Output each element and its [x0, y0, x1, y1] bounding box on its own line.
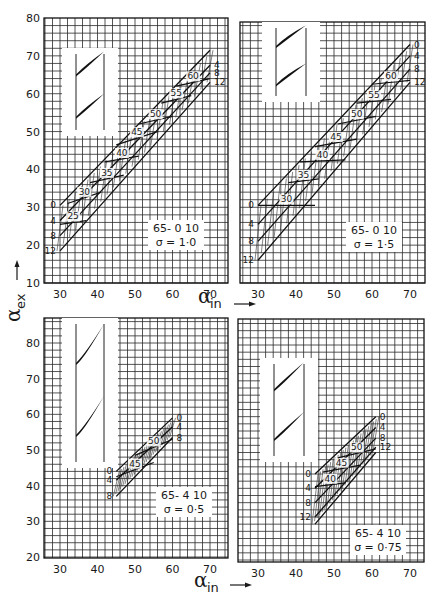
- y-tick-label: 70: [26, 373, 40, 386]
- y-tick-label: 50: [26, 444, 40, 457]
- incidence-label-right: 4: [380, 422, 386, 432]
- x-tick-label: 40: [289, 288, 303, 301]
- y-tick-label: 80: [26, 12, 40, 25]
- x-tick-label: 70: [403, 288, 417, 301]
- incidence-label-right: 8: [177, 433, 183, 443]
- incidence-label-right: 12: [414, 77, 425, 87]
- y-tick-label: 70: [26, 50, 40, 63]
- x-tick-label: 30: [251, 288, 265, 301]
- chart-panel-bottom-left: 304050607020304050607080004488455065- 4 …: [26, 318, 228, 576]
- incidence-line: [315, 438, 376, 503]
- airfoil-label: 65- 4 10: [161, 489, 207, 502]
- incidence-label-left: 8: [50, 231, 56, 241]
- y-tick-label: 60: [26, 408, 40, 421]
- chart-panel-top-right: 304050607000448812123035404550556065- 0 …: [240, 22, 425, 301]
- airfoil-annotation: 65- 4 10σ = 0·5: [156, 487, 212, 517]
- y-axis-subscript: ex: [13, 293, 28, 309]
- x-tick-label: 60: [166, 563, 180, 576]
- stagger-label: 35: [298, 170, 309, 180]
- incidence-label-left: 4: [305, 483, 311, 493]
- incidence-label-right: 0: [380, 412, 386, 422]
- y-tick-label: 30: [26, 515, 40, 528]
- x-tick-label: 50: [128, 288, 142, 301]
- solidity-label: σ = 1·5: [354, 238, 395, 251]
- airfoil-label: 65- 4 10: [355, 527, 401, 540]
- x-axis-alpha-bottom: α: [194, 568, 208, 592]
- cascade-blade-inset: [62, 318, 118, 468]
- x-tick-label: 30: [53, 288, 67, 301]
- x-tick-label: 40: [289, 567, 303, 580]
- stagger-label: 45: [131, 127, 142, 137]
- stagger-label: 50: [351, 442, 363, 452]
- y-axis-arrow-icon: [15, 260, 20, 280]
- stagger-label: 35: [101, 168, 112, 178]
- cascade-blade-inset: [262, 22, 320, 102]
- stagger-label: 55: [368, 90, 379, 100]
- y-tick-label: 20: [26, 239, 40, 252]
- incidence-label-left: 12: [243, 255, 254, 265]
- airfoil-label: 65- 0 10: [351, 224, 397, 237]
- y-tick-label: 60: [26, 88, 40, 101]
- cascade-deflection-figure: 3040506070102030405060708004488121225303…: [0, 0, 437, 612]
- x-tick-label: 50: [128, 563, 142, 576]
- incidence-label-right: 12: [380, 442, 391, 452]
- chart-panel-top-left: 3040506070102030405060708004488121225303…: [26, 12, 228, 301]
- chart-panels: 3040506070102030405060708004488121225303…: [26, 12, 425, 580]
- x-tick-label: 70: [403, 567, 417, 580]
- stagger-label: 30: [79, 187, 91, 197]
- incidence-label-left: 12: [300, 512, 311, 522]
- x-tick-label: 30: [53, 563, 67, 576]
- stagger-label: 60: [187, 71, 199, 81]
- solidity-label: σ = 1·0: [156, 236, 197, 249]
- cascade-blade-inset: [62, 48, 118, 136]
- airfoil-annotation: 65- 4 10σ = 0·75: [350, 525, 406, 555]
- incidence-label-left: 8: [248, 236, 254, 246]
- incidence-label-left: 4: [248, 219, 254, 229]
- x-tick-label: 40: [91, 563, 105, 576]
- stagger-label: 45: [330, 132, 341, 142]
- y-tick-label: 40: [26, 480, 40, 493]
- airfoil-annotation: 65- 0 10σ = 1·0: [148, 220, 204, 250]
- stagger-label: 45: [336, 458, 347, 468]
- stagger-label: 40: [324, 474, 336, 484]
- incidence-label-left: 8: [305, 498, 311, 508]
- x-axis-arrow-icon: [234, 302, 256, 307]
- chart-panel-bottom-right: 3040506070004488121240455065- 4 10σ = 0·…: [238, 319, 424, 580]
- y-tick-label: 80: [26, 337, 40, 350]
- stagger-label: 60: [385, 71, 397, 81]
- incidence-label-right: 4: [414, 51, 420, 61]
- x-tick-label: 60: [365, 288, 379, 301]
- incidence-label-left: 0: [305, 469, 311, 479]
- x-axis-title-top: α in: [198, 284, 222, 311]
- incidence-line: [116, 418, 172, 472]
- x-tick-label: 50: [327, 288, 341, 301]
- incidence-label-left: 8: [107, 491, 113, 501]
- y-axis-title: α ex: [1, 293, 28, 322]
- incidence-label-left: 0: [248, 200, 254, 210]
- stagger-label: 50: [351, 109, 363, 119]
- y-tick-label: 10: [26, 277, 40, 290]
- solidity-label: σ = 0·5: [164, 503, 205, 516]
- x-axis-subscript-top: in: [210, 296, 222, 311]
- y-tick-label: 50: [26, 126, 40, 139]
- airfoil-annotation: 65- 0 10σ = 1·5: [346, 222, 402, 252]
- incidence-label-right: 0: [414, 40, 420, 50]
- incidence-label-right: 8: [414, 64, 420, 74]
- airfoil-label: 65- 0 10: [153, 222, 199, 235]
- stagger-label: 50: [150, 109, 162, 119]
- x-tick-label: 60: [166, 288, 180, 301]
- stagger-label: 40: [317, 150, 329, 160]
- incidence-label-right: 12: [214, 77, 225, 87]
- stagger-label: 55: [171, 88, 182, 98]
- x-axis-arrow-icon: [230, 583, 252, 588]
- stagger-label: 30: [281, 194, 293, 204]
- y-tick-label: 30: [26, 201, 40, 214]
- stagger-label: 25: [67, 211, 78, 221]
- x-tick-label: 40: [91, 288, 105, 301]
- stagger-label: 50: [148, 436, 160, 446]
- y-tick-label: 40: [26, 163, 40, 176]
- solidity-label: σ = 0·75: [354, 541, 402, 554]
- y-tick-label: 20: [26, 551, 40, 564]
- y-axis-alpha: α: [1, 308, 25, 322]
- incidence-label-left: 12: [45, 246, 56, 256]
